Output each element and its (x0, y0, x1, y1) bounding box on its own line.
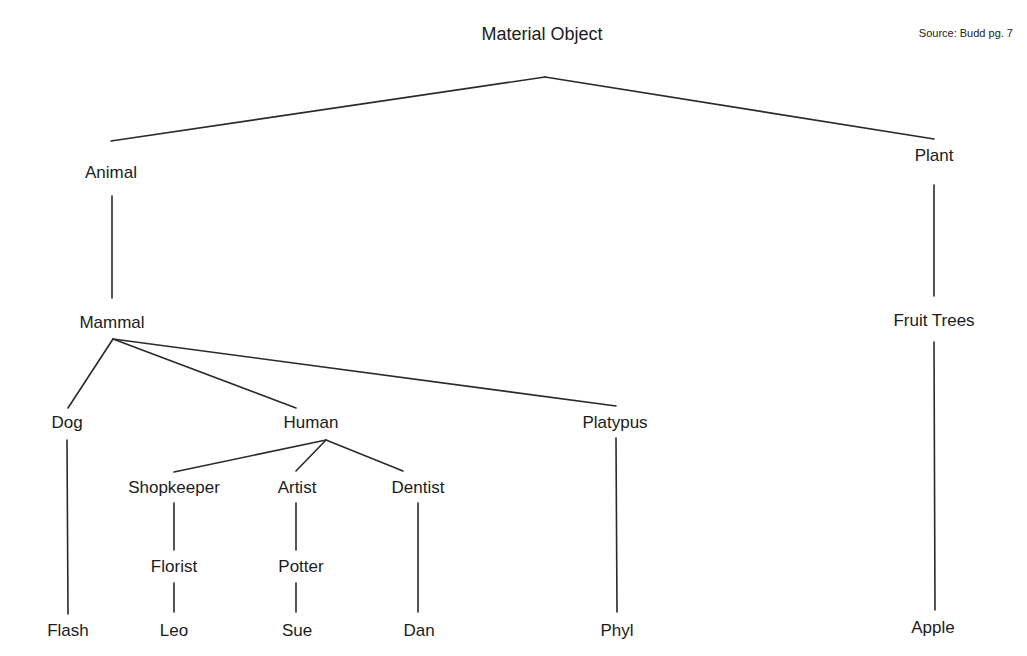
node-sue: Sue (282, 621, 312, 641)
node-potter: Potter (278, 557, 323, 577)
node-plant: Plant (915, 146, 954, 166)
node-animal: Animal (85, 163, 137, 183)
node-florist: Florist (151, 557, 197, 577)
edge-material-object-to-animal (111, 77, 545, 141)
edge-mammal-to-human (113, 339, 296, 408)
node-phyl: Phyl (600, 621, 633, 641)
node-artist: Artist (278, 478, 317, 498)
edge-platypus-to-phyl (616, 438, 617, 612)
source-note: Source: Budd pg. 7 (919, 27, 1013, 39)
hierarchy-diagram: Material Object Source: Budd pg. 7 Anima… (0, 0, 1027, 656)
edge-dog-to-flash (67, 440, 68, 614)
edge-human-to-shopkeeper (174, 440, 326, 472)
root-node-material-object: Material Object (481, 24, 602, 44)
node-apple: Apple (911, 618, 954, 638)
node-dan: Dan (403, 621, 434, 641)
node-shopkeeper: Shopkeeper (128, 478, 220, 498)
node-mammal: Mammal (79, 313, 144, 333)
node-platypus: Platypus (582, 413, 647, 433)
node-dentist: Dentist (392, 478, 445, 498)
node-leo: Leo (160, 621, 188, 641)
edge-material-object-to-plant (545, 77, 934, 139)
node-flash: Flash (47, 621, 89, 641)
edge-mammal-to-dog (68, 339, 113, 408)
edge-mammal-to-platypus (113, 339, 616, 406)
node-dog: Dog (51, 413, 82, 433)
node-human: Human (284, 413, 339, 433)
edge-human-to-dentist (326, 440, 403, 471)
node-fruit-trees: Fruit Trees (893, 311, 974, 331)
edge-fruit-trees-to-apple (934, 342, 935, 610)
